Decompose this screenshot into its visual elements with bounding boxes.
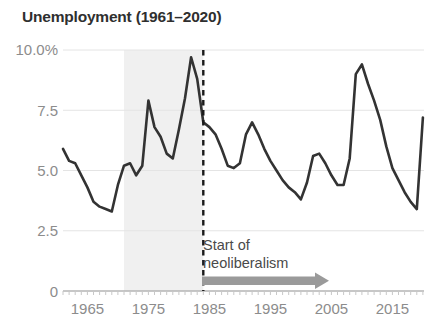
x-tick-1985: 1985 <box>193 300 226 317</box>
y-tick-5-0: 5.0 <box>37 162 58 179</box>
x-axis-labels: 1965 1975 1985 1995 2005 2015 <box>71 300 409 317</box>
x-tick-2015: 2015 <box>376 300 409 317</box>
y-axis-labels: 10.0% 7.5 5.0 2.5 0 <box>15 41 58 300</box>
annotation-line-1: Start of <box>203 237 251 253</box>
y-tick-2-5: 2.5 <box>37 222 58 239</box>
y-tick-0: 0 <box>50 283 58 300</box>
chart-plot-area: 10.0% 7.5 5.0 2.5 0 <box>0 0 428 335</box>
x-tick-2005: 2005 <box>315 300 348 317</box>
x-tick-1995: 1995 <box>254 300 287 317</box>
neoliberalism-era-arrow <box>202 273 329 290</box>
x-tick-1965: 1965 <box>71 300 104 317</box>
y-tick-7-5: 7.5 <box>37 102 58 119</box>
unemployment-chart-figure: Unemployment (1961–2020) 10.0% 7.5 5.0 2… <box>0 0 428 335</box>
unemployment-series-line <box>63 57 423 211</box>
x-tick-1975: 1975 <box>132 300 165 317</box>
annotation-line-2: neoliberalism <box>203 255 288 271</box>
y-tick-10: 10.0% <box>15 41 58 58</box>
